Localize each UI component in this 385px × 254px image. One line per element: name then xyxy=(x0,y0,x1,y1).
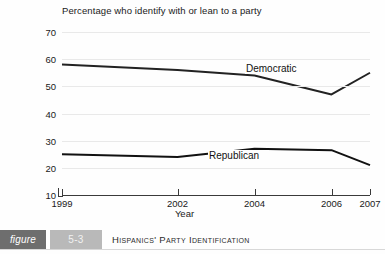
series-line-democratic xyxy=(62,65,370,95)
gridline xyxy=(62,32,370,33)
caption-underline xyxy=(0,249,385,250)
figure-caption-bar: figure 5-3 Hispanics' Party Identificati… xyxy=(0,230,385,249)
chart-title: Percentage who identify with or lean to … xyxy=(62,5,262,16)
x-tick xyxy=(62,189,63,195)
x-axis-title: Year xyxy=(0,208,385,219)
series-label-republican: Republican xyxy=(208,150,260,161)
x-axis: 19992002200420062007 xyxy=(62,195,370,196)
y-tick-label: 20 xyxy=(45,162,56,173)
series-label-democratic: Democratic xyxy=(245,63,298,74)
figure-number-text: 5-3 xyxy=(68,234,83,245)
gridline xyxy=(62,114,370,115)
x-tick xyxy=(255,189,256,195)
gridline xyxy=(62,86,370,87)
gridline xyxy=(62,59,370,60)
figure-title-text: Hispanics' Party Identification xyxy=(112,234,250,245)
gridline xyxy=(62,168,370,169)
x-tick xyxy=(332,189,333,195)
figure-title-wrap: Hispanics' Party Identification xyxy=(102,230,385,249)
figure-label-text: figure xyxy=(10,234,36,245)
gridline xyxy=(62,141,370,142)
figure-number-box: 5-3 xyxy=(50,230,102,249)
plot-area: 10203040506070 xyxy=(62,32,370,195)
figure-label-box: figure xyxy=(0,230,46,249)
y-tick-label: 30 xyxy=(45,135,56,146)
x-tick xyxy=(178,189,179,195)
y-tick-label: 60 xyxy=(45,54,56,65)
y-tick-label: 40 xyxy=(45,108,56,119)
figure-container: Percentage who identify with or lean to … xyxy=(0,0,385,254)
x-tick xyxy=(370,189,371,195)
y-tick-label: 50 xyxy=(45,81,56,92)
y-tick-label: 70 xyxy=(45,27,56,38)
x-axis-title-text: Year xyxy=(175,208,194,219)
